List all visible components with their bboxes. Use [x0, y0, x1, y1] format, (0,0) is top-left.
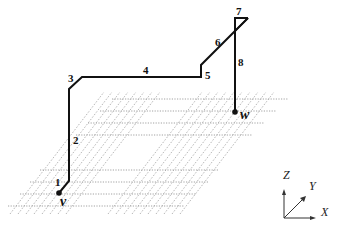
endpoint-w-dot	[232, 109, 238, 115]
z-axis-arrowhead	[282, 189, 286, 195]
y-axis-line	[284, 199, 303, 218]
z-axis-label: Z	[283, 168, 290, 182]
x-axis-label: X	[320, 205, 329, 219]
endpoint-label-v: v	[60, 194, 67, 209]
endpoint-label-w: w	[240, 107, 250, 122]
grid-diagonal-left	[10, 92, 160, 214]
segment-label-7: 7	[236, 5, 242, 17]
y-axis-label: Y	[309, 179, 317, 193]
routing-diagram: 1 2 3 4 5 6 7 8 v w Z Y X	[0, 0, 338, 229]
segment-label-3: 3	[68, 72, 74, 84]
segment-label-4: 4	[143, 64, 149, 76]
x-axis-arrowhead	[310, 216, 316, 220]
wire-segment-6-extension	[235, 18, 248, 31]
segment-label-6: 6	[215, 36, 221, 48]
axis-indicator: Z Y X	[282, 168, 329, 220]
segment-label-5: 5	[205, 69, 211, 81]
segment-label-2: 2	[73, 134, 79, 146]
segment-label-8: 8	[238, 56, 244, 68]
segment-label-1: 1	[55, 176, 61, 188]
